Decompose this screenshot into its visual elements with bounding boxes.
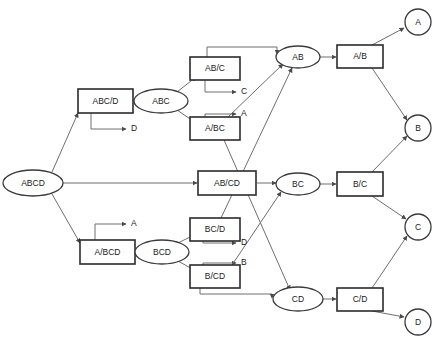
output-label-a-mid: A	[241, 108, 247, 118]
node-bc-ellipse[interactable]: BC	[276, 173, 320, 195]
node-bcd-ellipse[interactable]: BCD	[135, 240, 189, 264]
node-cd-label: CD	[292, 294, 304, 304]
edge-root-to-a-bcd	[52, 194, 80, 243]
edge-b-cd-to-cd	[200, 288, 272, 298]
edge-ab-c-to-c-label	[205, 80, 236, 92]
output-label-d-top: D	[131, 123, 137, 133]
node-bcd-label: BCD	[153, 247, 171, 257]
output-label-c: C	[241, 86, 247, 96]
edge-root-to-abcd-box	[52, 113, 78, 172]
node-cd-ellipse[interactable]: CD	[273, 287, 323, 311]
node-layer: ABCD ABC/D ABC AB/C A/BC AB	[3, 9, 431, 335]
node-leaf-d[interactable]: D	[405, 309, 431, 335]
output-label-d-low: D	[241, 237, 247, 247]
node-bc-d-box[interactable]: BC/D	[190, 218, 240, 241]
node-ab-label: AB	[292, 52, 304, 62]
node-abc-ellipse[interactable]: ABC	[134, 89, 188, 113]
node-b-c-box[interactable]: B/C	[337, 172, 383, 196]
node-ab-c-label: AB/C	[205, 63, 225, 73]
edge-a-b-to-leaf-a	[372, 28, 404, 45]
edge-c-d-to-leaf-c	[372, 236, 407, 288]
node-c-d-box[interactable]: C/D	[337, 288, 383, 311]
edge-c-d-to-leaf-d	[372, 311, 404, 317]
node-ab-cd-box[interactable]: AB/CD	[198, 171, 256, 195]
node-a-bcd-box[interactable]: A/BCD	[80, 240, 135, 264]
node-abc-d-label: ABC/D	[93, 96, 119, 106]
node-abc-label: ABC	[152, 96, 169, 106]
node-abcd-root[interactable]: ABCD	[3, 170, 63, 196]
node-leaf-a[interactable]: A	[405, 9, 431, 35]
node-ab-cd-label: AB/CD	[214, 178, 240, 188]
node-abcd-root-label: ABCD	[21, 178, 45, 188]
edge-b-c-to-leaf-b	[372, 136, 407, 172]
edge-a-b-to-leaf-b	[372, 68, 407, 120]
node-b-c-label: B/C	[353, 179, 367, 189]
node-a-bcd-label: A/BCD	[95, 247, 121, 257]
node-bc-label: BC	[292, 179, 304, 189]
edge-abcd-to-d-label	[91, 113, 126, 129]
node-a-b-label: A/B	[353, 51, 367, 61]
node-ab-ellipse[interactable]: AB	[276, 46, 320, 68]
partition-tree-diagram: ABCD ABC/D ABC AB/C A/BC AB	[0, 0, 442, 341]
node-leaf-c[interactable]: C	[405, 214, 431, 240]
node-leaf-a-label: A	[415, 17, 421, 27]
output-label-a-low: A	[131, 218, 137, 228]
node-bc-d-label: BC/D	[205, 224, 225, 234]
node-a-b-box[interactable]: A/B	[337, 45, 383, 68]
output-label-b-low: B	[241, 257, 247, 267]
node-b-cd-label: B/CD	[205, 271, 225, 281]
node-abc-d-box[interactable]: ABC/D	[78, 89, 133, 113]
node-b-cd-box[interactable]: B/CD	[190, 265, 240, 288]
node-leaf-b-label: B	[415, 123, 421, 133]
node-leaf-c-label: C	[415, 222, 421, 232]
edge-b-c-to-leaf-c	[372, 196, 406, 219]
node-a-bc-box[interactable]: A/BC	[190, 117, 240, 140]
edge-a-bcd-to-a-label	[95, 224, 126, 241]
node-c-d-label: C/D	[353, 294, 368, 304]
node-leaf-d-label: D	[415, 317, 421, 327]
node-ab-c-box[interactable]: AB/C	[190, 57, 240, 80]
node-leaf-b[interactable]: B	[405, 115, 431, 141]
node-a-bc-label: A/BC	[205, 123, 225, 133]
